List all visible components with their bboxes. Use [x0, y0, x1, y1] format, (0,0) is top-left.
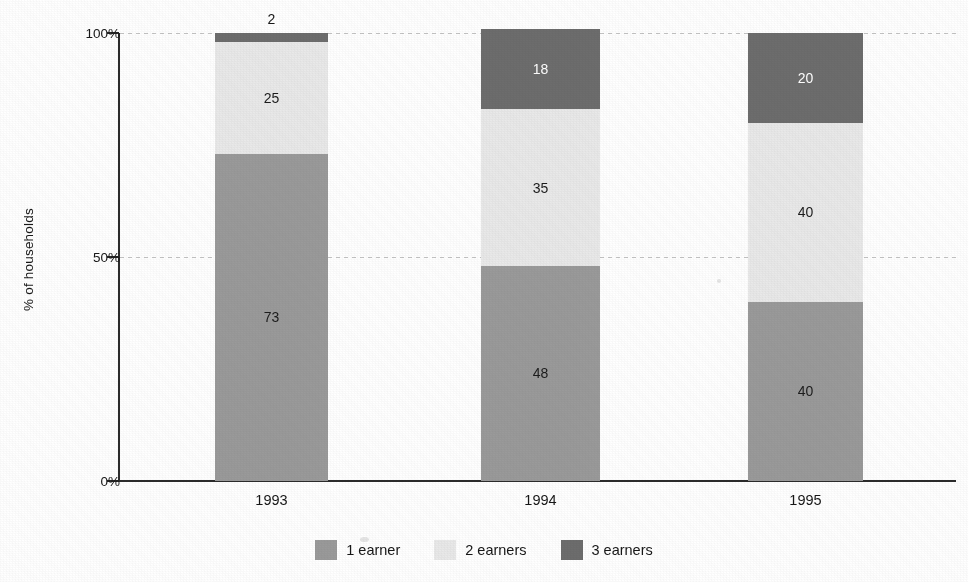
bar-value-label: 25 — [264, 91, 280, 105]
bar-value-label: 73 — [264, 310, 280, 324]
legend-swatch-icon — [561, 540, 583, 560]
scan-speck — [360, 537, 369, 542]
legend-swatch-icon — [315, 540, 337, 560]
bar-segment-1994-2-earners[interactable]: 35 — [481, 109, 600, 266]
legend-label: 2 earners — [465, 542, 526, 558]
bar-value-label: 48 — [533, 366, 549, 380]
bar-value-label: 35 — [533, 181, 549, 195]
bar-segment-1995-1-earner[interactable]: 40 — [748, 302, 863, 481]
bar-value-label: 20 — [798, 71, 814, 85]
stacked-bar-chart: % of households 100% 50% 0% 73 25 2 — [0, 0, 968, 582]
legend-label: 1 earner — [346, 542, 400, 558]
legend-item-2-earners[interactable]: 2 earners — [434, 540, 526, 560]
x-axis-label-1995: 1995 — [748, 492, 863, 508]
legend-item-3-earners[interactable]: 3 earners — [561, 540, 653, 560]
scan-speck — [717, 279, 721, 283]
bar-segment-1993-3-earners[interactable] — [215, 33, 328, 42]
x-axis-label-1994: 1994 — [481, 492, 600, 508]
bar-value-label: 40 — [798, 205, 814, 219]
chart-legend: 1 earner 2 earners 3 earners — [0, 540, 968, 560]
bar-segment-1995-3-earners[interactable]: 20 — [748, 33, 863, 123]
bar-value-label: 40 — [798, 384, 814, 398]
legend-swatch-icon — [434, 540, 456, 560]
bar-value-label: 18 — [533, 62, 549, 76]
bar-segment-1993-2-earners[interactable]: 25 — [215, 42, 328, 154]
bar-segment-1995-2-earners[interactable]: 40 — [748, 123, 863, 302]
legend-item-1-earner[interactable]: 1 earner — [315, 540, 400, 560]
legend-label: 3 earners — [592, 542, 653, 558]
bar-value-label-outside-1993-3-earners: 2 — [215, 11, 328, 27]
bar-segment-1994-1-earner[interactable]: 48 — [481, 266, 600, 481]
x-axis-label-1993: 1993 — [215, 492, 328, 508]
bar-segment-1993-1-earner[interactable]: 73 — [215, 154, 328, 481]
bar-group-1995[interactable]: 40 40 20 — [748, 33, 863, 481]
bar-group-1994[interactable]: 48 35 18 — [481, 33, 600, 481]
bar-group-1993[interactable]: 73 25 2 — [215, 33, 328, 481]
bar-segment-1994-3-earners[interactable]: 18 — [481, 29, 600, 110]
